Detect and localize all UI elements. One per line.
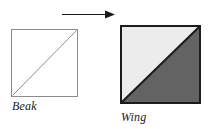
- arrow-right-icon: [62, 7, 115, 22]
- wing-shaded-triangles-icon: [122, 27, 199, 102]
- beak-square: [11, 29, 78, 97]
- target-label: Wing: [121, 111, 146, 124]
- source-label: Beak: [12, 100, 37, 113]
- beak-diagonal-icon: [12, 30, 77, 96]
- wing-square: [120, 25, 201, 104]
- source-panel: [11, 29, 78, 97]
- transformation-figure: Beak Wing: [0, 0, 214, 129]
- transformation-arrow-icon: [62, 7, 115, 22]
- target-panel: [120, 25, 201, 104]
